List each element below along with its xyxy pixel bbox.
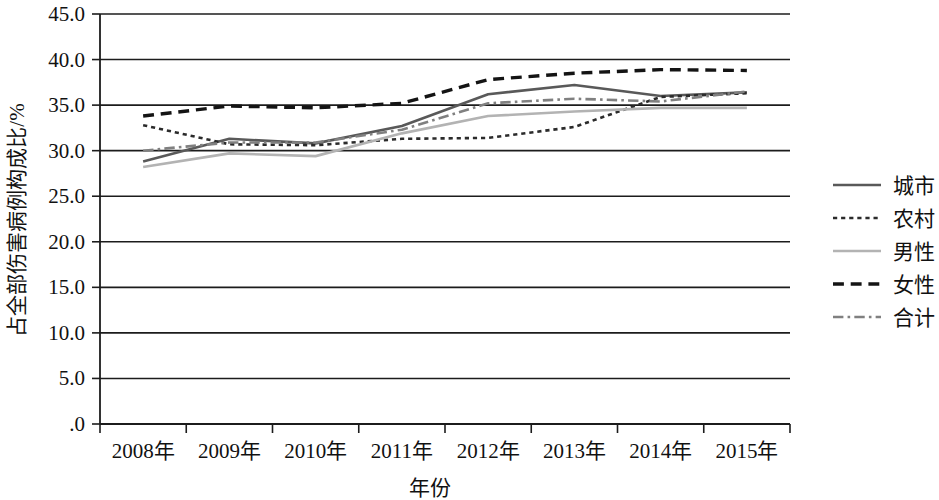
legend-label: 女性 [893, 273, 935, 297]
x-tick-label: 2009年 [198, 439, 261, 463]
gridlines [100, 14, 790, 424]
x-axis-tick-labels: 2008年2009年2010年2011年2012年2013年2014年2015年 [112, 439, 779, 463]
series-line [143, 91, 747, 150]
y-axis-title: 占全部伤害病例构成比/% [5, 103, 29, 336]
x-tick-label: 2008年 [112, 439, 175, 463]
y-tick-label: 45.0 [48, 2, 85, 26]
legend-label: 合计 [893, 306, 935, 330]
line-chart: 45.040.035.030.025.020.015.010.05.0.0 20… [0, 0, 939, 500]
legend-label: 城市 [893, 174, 935, 198]
y-tick-label: 30.0 [48, 139, 85, 163]
y-tick-label: 40.0 [48, 48, 85, 72]
x-axis-tick-marks [100, 424, 790, 433]
x-tick-label: 2010年 [284, 439, 347, 463]
y-tick-label: 35.0 [48, 93, 85, 117]
y-axis-tick-marks [92, 14, 100, 424]
y-tick-label: .0 [69, 412, 85, 436]
axis-lines [100, 14, 790, 424]
data-series [143, 70, 747, 167]
x-tick-label: 2012年 [457, 439, 520, 463]
y-axis-tick-labels: 45.040.035.030.025.020.015.010.05.0.0 [48, 2, 85, 436]
y-tick-label: 25.0 [48, 184, 85, 208]
legend-label: 农村 [893, 207, 935, 231]
x-tick-label: 2015年 [715, 439, 778, 463]
chart-legend: 城市农村男性女性合计 [833, 174, 935, 330]
y-tick-label: 5.0 [59, 366, 85, 390]
chart-container: 45.040.035.030.025.020.015.010.05.0.0 20… [0, 0, 939, 500]
legend-label: 男性 [893, 240, 935, 264]
y-tick-label: 10.0 [48, 321, 85, 345]
x-axis-title: 年份 [409, 476, 451, 500]
x-tick-label: 2013年 [543, 439, 606, 463]
y-tick-label: 20.0 [48, 230, 85, 254]
x-tick-label: 2014年 [629, 439, 692, 463]
x-tick-label: 2011年 [371, 439, 433, 463]
y-tick-label: 15.0 [48, 275, 85, 299]
